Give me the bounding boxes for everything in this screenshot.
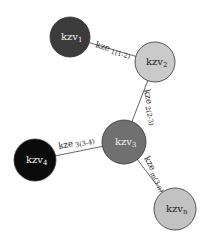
- edge-label-e34: kze3(3-4): [57, 134, 96, 153]
- node-kzv3: kzv3: [102, 120, 146, 164]
- node-kzvn: kzvn: [154, 188, 196, 230]
- edge-label-e12: kze1(1-2): [94, 39, 133, 61]
- node-kzv1: kzv1: [50, 17, 90, 57]
- node-kzv2: kzv2: [135, 42, 175, 82]
- network-diagram: kzv1kzv2kzv3kzv4kzvn kze1(1-2)kze2(2-3)k…: [0, 0, 213, 243]
- edge-label-e23: kze2(2-3): [140, 88, 159, 127]
- node-kzv4: kzv4: [14, 139, 56, 181]
- edge-label-e3n: kzem(3-n): [140, 154, 169, 194]
